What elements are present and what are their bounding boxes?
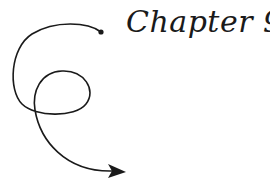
chapter-header: Chapter 9: [0, 0, 270, 179]
chapter-title: Chapter 9: [126, 4, 270, 39]
arrow-curve: [13, 24, 112, 171]
